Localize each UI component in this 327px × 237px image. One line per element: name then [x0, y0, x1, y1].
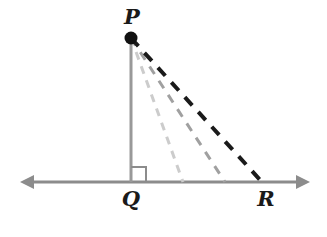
ray-P-to-R	[131, 38, 262, 182]
baseline-arrow-left-icon	[20, 175, 34, 189]
ray-P-to-light	[131, 38, 183, 182]
baseline-arrow-right-icon	[296, 175, 310, 189]
vertex-label-r: R	[255, 188, 277, 209]
point-P-marker	[125, 32, 138, 45]
geometry-figure: P Q R	[0, 0, 327, 237]
ray-P-to-medium	[131, 38, 225, 182]
geometry-canvas	[0, 0, 327, 237]
vertex-label-q: Q	[120, 188, 142, 209]
right-angle-marker	[131, 167, 146, 182]
vertex-label-p: P	[121, 6, 143, 27]
